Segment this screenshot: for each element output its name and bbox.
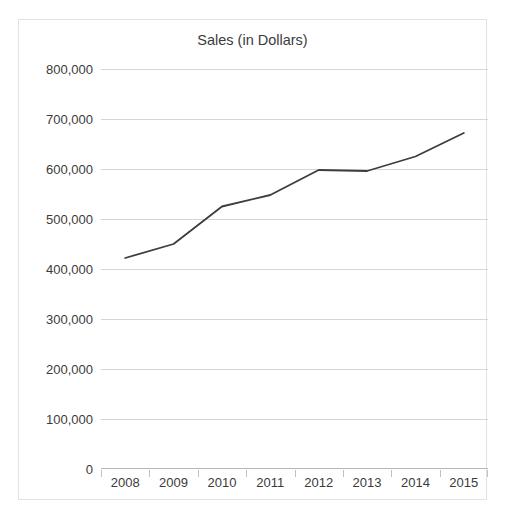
x-axis-tick-label-2008: 2008	[101, 470, 149, 496]
sales-line-series	[101, 69, 488, 469]
y-axis-tick-label: 200,000	[46, 362, 93, 377]
y-axis-tick-label: 400,000	[46, 262, 93, 277]
y-axis-tick-label: 800,000	[46, 62, 93, 77]
x-axis-tick-label-2010: 2010	[198, 470, 246, 496]
x-axis-tick-label-2015: 2015	[440, 470, 488, 496]
y-axis-tick-label: 0	[86, 462, 93, 477]
y-axis-tick-label: 300,000	[46, 312, 93, 327]
chart-title: Sales (in Dollars)	[19, 32, 486, 48]
y-axis-tick-label: 500,000	[46, 212, 93, 227]
x-axis-tick-label-2012: 2012	[295, 470, 343, 496]
plot-area: 800,000700,000600,000500,000400,000300,0…	[101, 69, 488, 469]
x-axis-tick-label-2009: 2009	[149, 470, 197, 496]
x-axis-tick-labels: 20082009201020112012201320142015	[101, 470, 488, 496]
chart-frame: Sales (in Dollars) 800,000700,000600,000…	[18, 19, 487, 500]
x-axis-tick-label-2011: 2011	[246, 470, 294, 496]
y-axis-tick-label: 600,000	[46, 162, 93, 177]
y-axis-tick-label: 700,000	[46, 112, 93, 127]
top-artifact-strip	[0, 0, 508, 14]
x-axis-tick-label-2013: 2013	[343, 470, 391, 496]
y-axis-tick-label: 100,000	[46, 412, 93, 427]
x-axis-tick-label-2014: 2014	[391, 470, 439, 496]
